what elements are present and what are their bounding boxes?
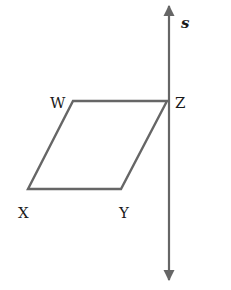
vertex-label-y: Y [118, 204, 130, 222]
vertex-label-x: X [18, 204, 29, 222]
diagram-canvas: s W Z Y X [0, 0, 231, 290]
vertex-label-w: W [50, 94, 66, 112]
parallelogram-wzyx [28, 101, 167, 189]
line-label-s: s [181, 14, 190, 32]
vertex-label-z: Z [175, 94, 185, 112]
